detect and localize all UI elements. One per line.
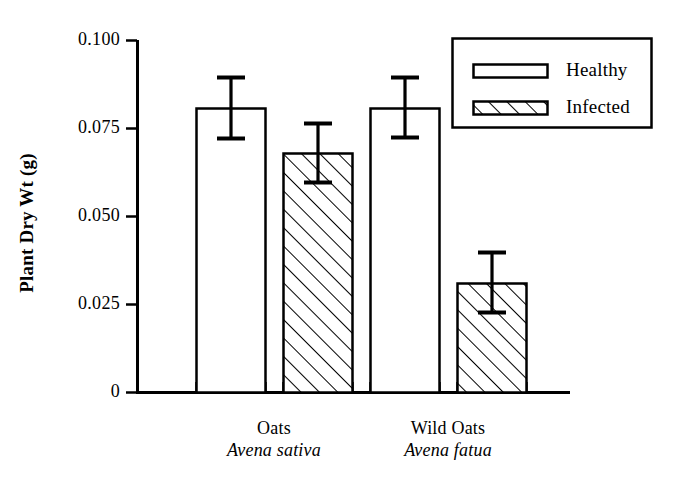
legend-label-infected: Infected <box>566 96 630 118</box>
legend-label-healthy: Healthy <box>566 59 628 81</box>
bar-wild-oats-healthy <box>371 109 440 393</box>
bar-chart-figure: Plant Dry Wt (g) 0.100 0.075 0.050 0.025… <box>0 0 678 500</box>
y-tick-label-0050: 0.050 <box>28 205 120 226</box>
y-tick-label-0025: 0.025 <box>28 293 120 314</box>
x-group-latin-name-oats: Avena sativa <box>194 440 354 462</box>
y-tick-marks <box>126 41 137 393</box>
y-tick-label-0075: 0.075 <box>28 117 120 138</box>
y-tick-label-0100: 0.100 <box>28 29 120 50</box>
x-group-label-wild-oats: Wild Oats Avena fatua <box>368 418 528 462</box>
x-group-label-oats: Oats Avena sativa <box>194 418 354 462</box>
bar-oats-healthy <box>197 109 266 393</box>
legend-swatch-healthy <box>474 65 548 78</box>
legend-swatch-infected <box>474 102 548 115</box>
x-group-common-name-wild-oats: Wild Oats <box>368 418 528 440</box>
y-tick-label-0: 0 <box>28 381 120 402</box>
x-group-common-name-oats: Oats <box>194 418 354 440</box>
bar-oats-infected <box>284 154 353 393</box>
x-group-latin-name-wild-oats: Avena fatua <box>368 440 528 462</box>
